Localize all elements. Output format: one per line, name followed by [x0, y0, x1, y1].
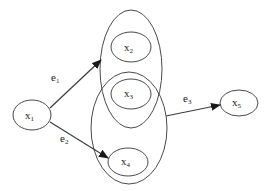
svg-text:e1: e1: [51, 71, 60, 85]
node-x3: x3: [111, 79, 151, 109]
hypergraph-diagram: x1 x2 x3 x4 x5 e1 e2 e3: [0, 0, 274, 191]
svg-text:e2: e2: [60, 132, 69, 146]
svg-text:x4: x4: [121, 155, 131, 169]
node-x4: x4: [108, 148, 148, 176]
edge-e3: e3: [166, 92, 220, 116]
svg-text:x1: x1: [25, 109, 35, 123]
group-upper-ellipse: [100, 10, 162, 128]
edge-e1: e1: [50, 60, 101, 108]
node-x5: x5: [220, 90, 258, 116]
svg-text:x2: x2: [124, 41, 134, 55]
svg-text:e3: e3: [183, 92, 192, 106]
arrow-e2-icon: [50, 122, 108, 158]
node-x1: x1: [13, 100, 51, 130]
svg-text:x5: x5: [232, 96, 242, 110]
edge-e2: e2: [50, 122, 108, 158]
node-x2: x2: [111, 32, 151, 62]
arrow-e3-icon: [166, 105, 220, 116]
svg-text:x3: x3: [124, 87, 134, 101]
